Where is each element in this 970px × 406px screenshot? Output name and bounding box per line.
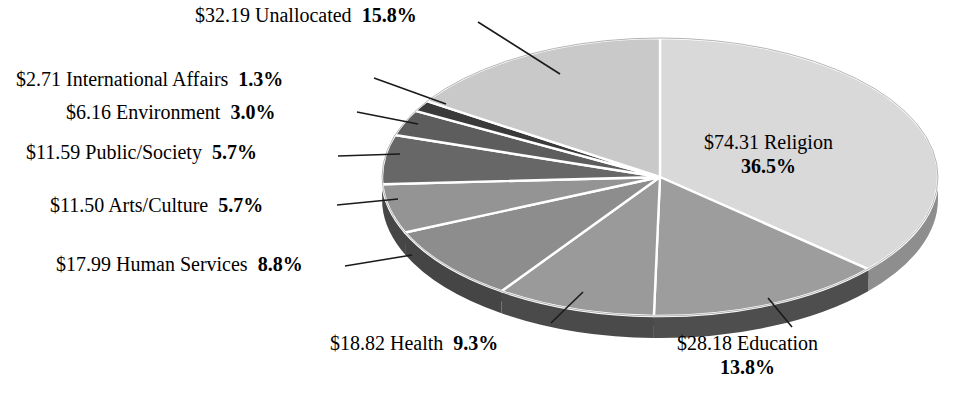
label-percent-human: 8.8% xyxy=(258,253,303,275)
label-percent-international: 1.3% xyxy=(238,68,283,90)
label-percent-public: 5.7% xyxy=(212,141,257,163)
label-name-unallocated: Unallocated xyxy=(255,4,352,26)
label-amount-unallocated: $32.19 xyxy=(195,4,250,26)
slice-label-international-affairs: $2.71 International Affairs 1.3% xyxy=(16,68,283,92)
slice-label-human-services: $17.99 Human Services 8.8% xyxy=(56,253,303,277)
label-percent-religion: 36.5% xyxy=(741,155,796,177)
label-percent-arts: 5.7% xyxy=(218,194,263,216)
slice-label-education: $28.18 Education 13.8% xyxy=(677,332,818,379)
label-name-environment: Environment xyxy=(116,101,220,123)
slice-label-environment: $6.16 Environment 3.0% xyxy=(66,101,275,125)
label-percent-health: 9.3% xyxy=(453,332,498,354)
label-name-international: International Affairs xyxy=(66,68,228,90)
label-amount-environment: $6.16 xyxy=(66,101,111,123)
label-name-health: Health xyxy=(390,332,443,354)
label-percent-education: 13.8% xyxy=(720,356,775,378)
label-name-arts: Arts/Culture xyxy=(108,194,208,216)
label-name-public: Public/Society xyxy=(85,141,202,163)
slice-label-health: $18.82 Health 9.3% xyxy=(330,332,498,356)
leader-line-international xyxy=(374,78,446,104)
label-amount-health: $18.82 xyxy=(330,332,385,354)
label-amount-international: $2.71 xyxy=(16,68,61,90)
label-name-education: Education xyxy=(737,332,818,354)
label-name-religion: Religion xyxy=(764,131,833,153)
label-amount-public: $11.59 xyxy=(26,141,80,163)
pie-slices xyxy=(382,38,938,316)
leader-line-human xyxy=(345,255,412,266)
label-percent-environment: 3.0% xyxy=(230,101,275,123)
slice-label-arts-culture: $11.50 Arts/Culture 5.7% xyxy=(50,194,263,218)
slice-label-unallocated: $32.19 Unallocated 15.8% xyxy=(195,4,417,28)
label-amount-human: $17.99 xyxy=(56,253,111,275)
label-name-human: Human Services xyxy=(116,253,248,275)
pie-chart-figure: $32.19 Unallocated 15.8% $2.71 Internati… xyxy=(0,0,970,406)
label-amount-education: $28.18 xyxy=(677,332,732,354)
label-percent-unallocated: 15.8% xyxy=(362,4,417,26)
label-amount-arts: $11.50 xyxy=(50,194,104,216)
slice-label-public-society: $11.59 Public/Society 5.7% xyxy=(26,141,257,165)
slice-label-religion: $74.31 Religion 36.5% xyxy=(704,131,833,178)
label-amount-religion: $74.31 xyxy=(704,131,759,153)
